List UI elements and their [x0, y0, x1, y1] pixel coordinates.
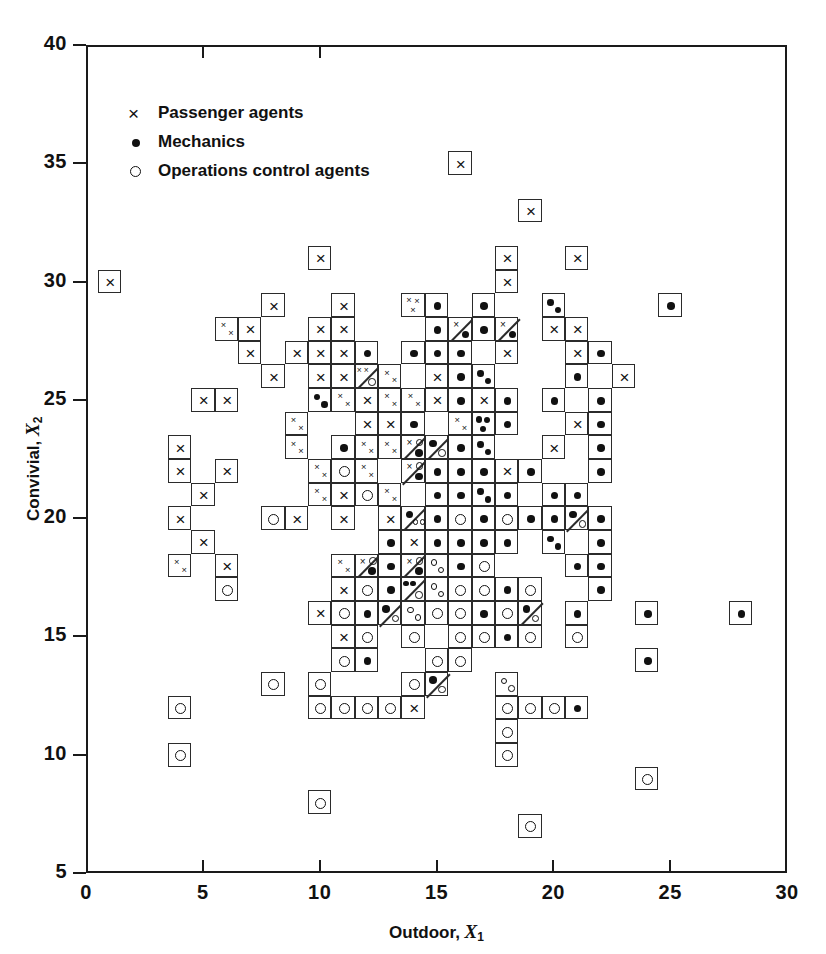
- x-marker-icon: ×: [615, 369, 634, 386]
- open-circle-icon: [315, 703, 326, 714]
- data-cell: ×: [331, 293, 354, 317]
- data-cell: [378, 696, 401, 720]
- data-cell: [425, 672, 448, 696]
- filled-dot-icon: [368, 567, 376, 575]
- data-cell: ××: [401, 388, 424, 412]
- filled-dot-icon: [551, 492, 559, 500]
- open-circle-icon: [268, 679, 279, 690]
- open-circle-icon: [438, 686, 446, 694]
- data-cell: ×: [168, 435, 191, 459]
- open-circle-icon: [339, 466, 350, 477]
- open-circle-icon: [339, 608, 350, 619]
- x-marker-icon: ×: [194, 392, 213, 409]
- data-cell: [401, 672, 424, 696]
- data-cell: [565, 364, 588, 388]
- data-cell: ××: [285, 435, 308, 459]
- filled-dot-icon: [457, 373, 465, 381]
- data-cell: [588, 388, 611, 412]
- open-circle-icon: [362, 703, 373, 714]
- data-cell: [472, 317, 495, 341]
- data-cell: [542, 388, 565, 412]
- data-cell: ×: [448, 317, 471, 341]
- data-cell: [495, 483, 518, 507]
- x-marker-icon: ×: [241, 321, 260, 338]
- data-cell: ×: [308, 364, 331, 388]
- x-axis-title-text: Outdoor,: [389, 923, 460, 942]
- open-circle-icon: [502, 750, 513, 761]
- data-cell: [518, 696, 541, 720]
- data-cell: ×: [331, 341, 354, 365]
- open-circle-icon: [409, 632, 420, 643]
- filled-dot-icon: [527, 515, 535, 523]
- x-tick-mark: [319, 860, 321, 873]
- x-marker-icon: ×: [288, 511, 307, 528]
- data-cell: [168, 743, 191, 767]
- data-cell: [448, 530, 471, 554]
- data-cell: [308, 672, 331, 696]
- x-marker-icon: ×: [335, 511, 354, 528]
- data-cell: [331, 601, 354, 625]
- x-marker-icon: ×: [545, 440, 564, 457]
- data-cell: ×: [565, 412, 588, 436]
- data-cell: [425, 317, 448, 341]
- data-cell: ×: [542, 317, 565, 341]
- filled-dot-icon: [597, 444, 605, 452]
- data-cell: ×: [308, 341, 331, 365]
- data-cell: [588, 459, 611, 483]
- x-tick-label: 30: [764, 881, 810, 904]
- data-cell: [495, 743, 518, 767]
- data-cell: [472, 577, 495, 601]
- data-cell: ×: [238, 317, 261, 341]
- data-cell: [355, 341, 378, 365]
- data-cell: ×: [215, 554, 238, 578]
- x-marker-icon: ×: [319, 471, 329, 480]
- data-cell: ×: [401, 530, 424, 554]
- data-cell: [261, 672, 284, 696]
- filled-dot-icon: [314, 394, 321, 401]
- data-cell: [472, 506, 495, 530]
- x-marker-icon: ×: [389, 447, 399, 456]
- y-tick-mark: [73, 399, 86, 401]
- data-cell: ××: [168, 554, 191, 578]
- open-circle-icon: [315, 798, 326, 809]
- data-cell: [472, 435, 495, 459]
- x-marker-icon: ×: [497, 320, 508, 330]
- filled-dot-icon: [480, 302, 488, 310]
- data-cell: ×: [401, 435, 424, 459]
- legend-label: Mechanics: [158, 132, 245, 152]
- filled-dot-icon: [457, 492, 465, 500]
- filled-dot-icon: [574, 492, 582, 500]
- filled-dot-icon: [480, 426, 487, 433]
- data-cell: [472, 601, 495, 625]
- data-cell: [542, 483, 565, 507]
- filled-dot-icon: [476, 416, 483, 423]
- data-cell: [542, 293, 565, 317]
- data-cell: ×: [495, 270, 518, 294]
- data-cell: [518, 814, 541, 838]
- data-cell: ×: [261, 293, 284, 317]
- data-cell: [495, 696, 518, 720]
- data-cell: ×: [425, 364, 448, 388]
- x-marker-icon: ×: [335, 629, 354, 646]
- data-cell: [518, 459, 541, 483]
- data-cell: [355, 648, 378, 672]
- data-cell: [355, 577, 378, 601]
- x-marker-icon: ×: [408, 306, 418, 315]
- filled-dot-icon: [555, 307, 562, 314]
- open-circle-icon: [413, 519, 419, 525]
- filled-dot-icon: [457, 539, 465, 547]
- data-cell: ××: [355, 435, 378, 459]
- filled-dot-icon: [504, 492, 512, 500]
- x-marker-icon: ×: [452, 156, 471, 173]
- open-circle-icon: [455, 608, 466, 619]
- data-cell: [448, 364, 471, 388]
- x-marker-icon: ×: [343, 566, 353, 575]
- filled-dot-icon: [403, 581, 409, 587]
- data-cell: ×: [565, 246, 588, 270]
- x-marker-icon: ×: [311, 321, 330, 338]
- data-cell: ××: [355, 364, 378, 388]
- filled-dot-icon: [382, 605, 390, 613]
- data-cell: ×: [401, 554, 424, 578]
- x-tick-label: 5: [180, 881, 226, 904]
- data-cell: [425, 554, 448, 578]
